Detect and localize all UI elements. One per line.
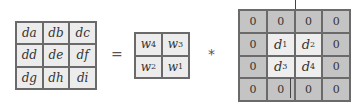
grid-cell: d2	[295, 33, 323, 56]
grid-cell: 0	[239, 78, 267, 101]
grid-cell: 0	[322, 10, 350, 33]
grid-cell: db	[43, 22, 70, 44]
grid-cell: di	[69, 67, 96, 89]
grid-cell: d1	[267, 33, 295, 56]
grid-cell: d3	[267, 56, 295, 79]
grid-cell: dc	[69, 22, 96, 44]
grid-cell: 0	[322, 56, 350, 79]
grid-cell: df	[69, 44, 96, 66]
grid-cell: 0	[267, 10, 295, 33]
grid-cell: 0	[295, 78, 323, 101]
padded-input-grid: 00000d1d200d3d400000	[238, 9, 351, 102]
kernel-grid: w4w3w2w1	[134, 32, 190, 79]
grid-cell: w4	[135, 33, 162, 56]
grid-cell: dg	[16, 67, 43, 89]
grid-cell: 0	[322, 78, 350, 101]
grid-cell: dd	[16, 44, 43, 66]
grid-cell: d4	[295, 56, 323, 79]
window-marker-bottom	[290, 78, 291, 98]
window-marker-top	[295, 0, 296, 9]
grid-cell: de	[43, 44, 70, 66]
grid-cell: 0	[239, 10, 267, 33]
grid-cell: 0	[239, 33, 267, 56]
convolution-operator: *	[208, 46, 215, 62]
grid-cell: w3	[162, 33, 189, 56]
grid-cell: 0	[295, 10, 323, 33]
grid-cell: dh	[43, 67, 70, 89]
grid-cell: 0	[239, 56, 267, 79]
output-gradient-grid: dadbdcdddedfdgdhdi	[15, 21, 97, 90]
equals-sign: =	[111, 46, 123, 62]
grid-cell: da	[16, 22, 43, 44]
grid-cell: w2	[135, 56, 162, 79]
grid-cell: w1	[162, 56, 189, 79]
grid-cell: 0	[322, 33, 350, 56]
